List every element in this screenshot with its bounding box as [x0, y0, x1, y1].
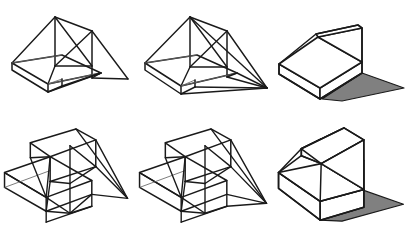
wedge-construction-step-1-drawing — [0, 0, 137, 120]
figure-steps-construction-step-2 — [137, 120, 274, 240]
riser-construction-edges — [50, 146, 96, 184]
steps-construction-step-2-drawing — [137, 120, 274, 240]
riser-construction-edges — [185, 146, 231, 184]
wedge-frame-edges — [190, 17, 227, 77]
wedge-frame-edges — [55, 17, 92, 78]
figure-steps-construction-step-1 — [0, 120, 137, 240]
figure-sheet — [0, 0, 411, 241]
steps-construction-step-1-drawing — [0, 120, 137, 240]
figure-wedge-construction-step-1 — [0, 0, 137, 120]
wedge-result-shaded-drawing — [274, 0, 411, 120]
light-rays — [145, 17, 267, 88]
shadow-outline-closed — [181, 194, 266, 222]
figure-wedge-result-shaded — [274, 0, 411, 120]
steps-result-shaded-drawing — [274, 120, 411, 240]
wedge-construction-step-2-drawing — [137, 0, 274, 120]
figure-steps-result-shaded — [274, 120, 411, 240]
light-rays — [30, 129, 127, 213]
figure-wedge-construction-step-2 — [137, 0, 274, 120]
